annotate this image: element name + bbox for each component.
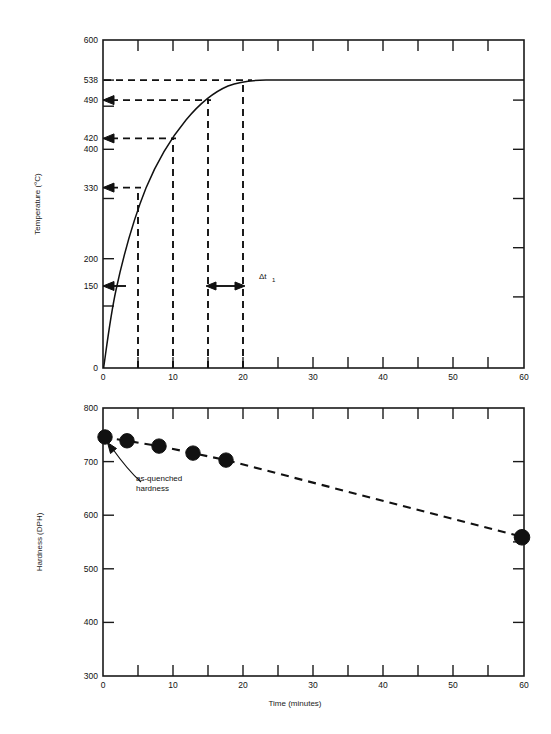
top-xtick-50: 50	[448, 372, 458, 382]
top-ytick-538: 538	[84, 75, 98, 85]
top-xtick-0: 0	[101, 372, 106, 382]
bottom-xtick-60: 60	[519, 680, 529, 690]
data-point	[186, 446, 200, 460]
bottom-axis-top-ticks	[138, 408, 488, 419]
top-xtick-20: 20	[238, 372, 248, 382]
bottom-x-axis-title: Time (minutes)	[268, 699, 321, 708]
top-ytick-420: 420	[84, 133, 98, 143]
guide-330-arrowhead	[103, 183, 114, 192]
top-ytick-400: 400	[84, 144, 98, 154]
top-ytick-200: 200	[84, 254, 98, 264]
bottom-y-tick-labels: 800 700 600 500 400 300	[84, 403, 98, 681]
bottom-ytick-500: 500	[84, 564, 98, 574]
delta-t1-label-subscript: 1	[272, 277, 276, 283]
top-y-tick-labels: 600 538 490 420 400 330 200 150 0	[84, 35, 98, 373]
figure-container: 600 538 490 420 400 330 200 150 0 0 10 2…	[0, 0, 551, 734]
data-point	[98, 430, 112, 444]
top-xtick-10: 10	[168, 372, 178, 382]
top-axis-bottom-ticks	[138, 357, 488, 368]
bottom-xtick-20: 20	[238, 680, 248, 690]
delta-t1-label: Δt 1	[259, 272, 276, 283]
bottom-x-tick-labels: 0 10 20 30 40 50 60	[101, 680, 529, 690]
delta-t1-span-arrow	[206, 282, 245, 290]
chart-hardness-vs-time: as-quenched hardness 800 700 600 500 400…	[35, 403, 530, 708]
top-x-tick-labels: 0 10 20 30 40 50 60	[101, 372, 529, 382]
guide-490-arrowhead	[103, 96, 114, 105]
top-ytick-0: 0	[93, 363, 98, 373]
as-quenched-callout: as-quenched hardness	[108, 443, 183, 494]
top-ytick-600: 600	[84, 35, 98, 45]
data-point	[219, 453, 233, 467]
top-axis-top-ticks	[138, 40, 488, 51]
bottom-xtick-30: 30	[308, 680, 318, 690]
top-axis-left-ticks	[103, 80, 114, 306]
guide-150-arrowhead	[103, 282, 114, 291]
top-axis-right-ticks	[513, 100, 524, 297]
bottom-xtick-10: 10	[168, 680, 178, 690]
top-vertical-guides	[138, 82, 243, 369]
top-xtick-30: 30	[308, 372, 318, 382]
bottom-ytick-700: 700	[84, 457, 98, 467]
bottom-axis-bottom-ticks	[138, 665, 488, 676]
bottom-xtick-0: 0	[101, 680, 106, 690]
as-quenched-callout-line1: as-quenched	[136, 474, 182, 483]
top-xtick-60: 60	[519, 372, 529, 382]
figure-svg: 600 538 490 420 400 330 200 150 0 0 10 2…	[0, 0, 551, 734]
top-ytick-490: 490	[84, 95, 98, 105]
top-xtick-40: 40	[378, 372, 388, 382]
chart-temperature-vs-time: 600 538 490 420 400 330 200 150 0 0 10 2…	[33, 35, 529, 382]
top-y-axis-title: Temperature (°C)	[33, 173, 42, 235]
as-quenched-callout-line2: hardness	[136, 484, 169, 493]
bottom-ytick-300: 300	[84, 671, 98, 681]
temperature-curve	[104, 80, 524, 368]
top-ytick-330: 330	[84, 183, 98, 193]
bottom-ytick-600: 600	[84, 510, 98, 520]
bottom-axis-left-ticks	[103, 462, 114, 623]
data-point	[152, 439, 166, 453]
guide-420-arrowhead	[103, 134, 114, 143]
bottom-ytick-800: 800	[84, 403, 98, 413]
top-plot-frame	[103, 40, 524, 368]
delta-t1-label-main: Δt	[259, 272, 267, 281]
top-horizontal-guides	[103, 80, 252, 290]
data-point	[514, 530, 530, 546]
top-ytick-150: 150	[84, 281, 98, 291]
data-point	[120, 434, 134, 448]
bottom-y-axis-title: Hardness (DPH)	[35, 512, 44, 571]
bottom-ytick-400: 400	[84, 617, 98, 627]
bottom-xtick-50: 50	[448, 680, 458, 690]
bottom-xtick-40: 40	[378, 680, 388, 690]
